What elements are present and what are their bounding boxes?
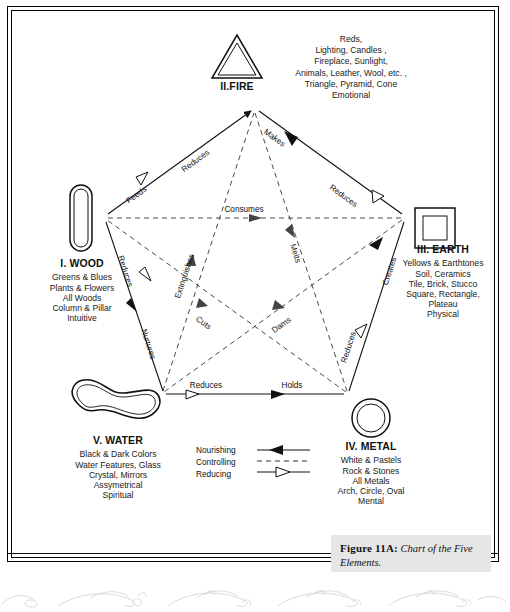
arrowhead-wood-to-earth-consumes bbox=[249, 214, 262, 222]
arrowhead-water-to-metal-reduces bbox=[186, 390, 199, 399]
legend-label-controlling: Controlling bbox=[196, 457, 246, 467]
arrowhead-earth-to-fire-reduces bbox=[372, 190, 384, 203]
element-attributes-fire: Reds, Lighting, Candles , Fireplace, Sun… bbox=[256, 34, 446, 101]
triangle-icon bbox=[212, 35, 262, 78]
label-extinguishes: Extinguishes bbox=[173, 253, 196, 300]
water-attr-4: Spiritual bbox=[48, 490, 188, 500]
label-melts: Melts bbox=[288, 243, 303, 264]
earth-attr-0: Yellows & Earthtones bbox=[378, 258, 508, 268]
figure-caption-label: Figure 11A: bbox=[340, 542, 398, 554]
label-reduces-fire-wood: Reduces bbox=[180, 148, 211, 174]
square-icon bbox=[415, 208, 455, 248]
element-block-wood: I. WOOD Greens & Blues Plants & Flowers … bbox=[12, 257, 152, 323]
earth-attr-5: Physical bbox=[378, 309, 508, 319]
fire-attr-3: Animals, Leather, Wool, etc. , bbox=[256, 68, 446, 79]
label-reduces-water-metal: Reduces bbox=[190, 381, 222, 390]
wave-blob-icon bbox=[72, 380, 160, 418]
metal-attr-2: All Metals bbox=[310, 476, 432, 486]
wood-attr-2: All Woods bbox=[12, 293, 152, 303]
label-holds: Holds bbox=[282, 381, 303, 390]
wood-attr-1: Plants & Flowers bbox=[12, 283, 152, 293]
label-reduces-earth-fire: Reduces bbox=[328, 183, 359, 209]
earth-attr-4: Plateau bbox=[378, 299, 508, 309]
arrowhead-metal-to-wood-cuts bbox=[196, 298, 208, 308]
element-title-wood: I. WOOD bbox=[12, 257, 152, 269]
element-title-metal: IV. METAL bbox=[310, 440, 432, 452]
figure-caption: Figure 11A: Chart of the Five Elements. bbox=[331, 535, 491, 572]
label-dams: Dams bbox=[270, 315, 293, 335]
earth-attr-3: Square, Rectangle, bbox=[378, 289, 508, 299]
legend-swatch-reducing bbox=[246, 468, 321, 480]
element-title-water: V. WATER bbox=[48, 434, 188, 446]
page-canvas: Feeds Makes Creates Holds Nurtures Consu… bbox=[0, 0, 510, 612]
fire-attr-2: Fireplace, Sunlight, bbox=[256, 56, 446, 67]
water-attr-0: Black & Dark Colors bbox=[48, 449, 188, 459]
metal-attr-0: White & Pastels bbox=[310, 455, 432, 465]
element-attributes-water: Black & Dark Colors Water Features, Glas… bbox=[48, 449, 188, 500]
legend: Nourishing Controlling Reducing bbox=[196, 444, 321, 480]
earth-attr-1: Soil, Ceramics bbox=[378, 269, 508, 279]
edge-fire-to-metal-melts bbox=[255, 113, 347, 391]
legend-row-controlling: Controlling bbox=[196, 456, 321, 468]
arrowhead-fire-to-metal-melts bbox=[285, 224, 295, 238]
legend-row-reducing: Reducing bbox=[196, 468, 321, 480]
metal-attr-4: Mental bbox=[310, 496, 432, 506]
fire-attr-5: Emotional bbox=[256, 90, 446, 101]
arrowhead-earth-to-water-dams bbox=[272, 300, 285, 310]
wood-attr-0: Greens & Blues bbox=[12, 272, 152, 282]
arrowhead-metal-to-water-holds bbox=[271, 390, 285, 399]
wood-attr-3: Column & Pillar bbox=[12, 303, 152, 313]
label-feeds: Feeds bbox=[125, 185, 149, 206]
label-cuts: Cuts bbox=[194, 314, 213, 331]
pillar-icon bbox=[70, 185, 92, 251]
label-consumes: Consumes bbox=[224, 205, 263, 214]
label-reduces-metal-earth: Reduces bbox=[339, 330, 358, 364]
fire-attr-0: Reds, bbox=[256, 34, 446, 45]
arrowhead-fire-to-wood-reduces bbox=[136, 172, 148, 185]
element-attributes-metal: White & Pastels Rock & Stones All Metals… bbox=[310, 455, 432, 506]
label-nurtures: Nurtures bbox=[139, 328, 157, 361]
water-attr-3: Assymetrical bbox=[48, 480, 188, 490]
wood-attr-4: Intuitive bbox=[12, 313, 152, 323]
element-block-water: V. WATER Black & Dark Colors Water Featu… bbox=[48, 434, 188, 500]
circle-icon bbox=[352, 399, 390, 437]
legend-label-nourishing: Nourishing bbox=[196, 445, 246, 455]
fire-attr-4: Triangle, Pyramid, Cone bbox=[256, 79, 446, 90]
legend-row-nourishing: Nourishing bbox=[196, 444, 321, 456]
element-title-earth: III. EARTH bbox=[378, 243, 508, 255]
element-attributes-wood: Greens & Blues Plants & Flowers All Wood… bbox=[12, 272, 152, 323]
fire-attr-1: Lighting, Candles , bbox=[256, 45, 446, 56]
bottom-ornament bbox=[0, 578, 510, 612]
label-makes: Makes bbox=[262, 127, 287, 148]
element-block-earth: III. EARTH Yellows & Earthtones Soil, Ce… bbox=[378, 243, 508, 319]
legend-swatch-controlling bbox=[246, 456, 321, 468]
element-attributes-earth: Yellows & Earthtones Soil, Ceramics Tile… bbox=[378, 258, 508, 319]
metal-attr-1: Rock & Stones bbox=[310, 466, 432, 476]
earth-attr-2: Tile, Brick, Stucco bbox=[378, 279, 508, 289]
legend-swatch-nourishing bbox=[246, 444, 321, 456]
element-block-metal: IV. METAL White & Pastels Rock & Stones … bbox=[310, 440, 432, 506]
water-attr-1: Water Features, Glass bbox=[48, 460, 188, 470]
legend-label-reducing: Reducing bbox=[196, 469, 246, 479]
metal-attr-3: Arch, Circle, Oval bbox=[310, 486, 432, 496]
arrowhead-fire-to-earth-makes bbox=[284, 131, 298, 146]
water-attr-2: Crystal, Mirrors bbox=[48, 470, 188, 480]
